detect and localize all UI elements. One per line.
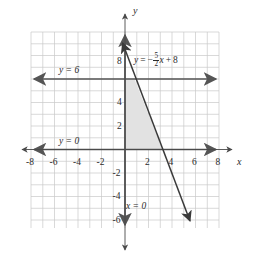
y-tick-4: 4 — [117, 98, 122, 108]
x-tick--6: -6 — [50, 158, 58, 168]
y-axis-name: y — [133, 6, 137, 16]
equation-fraction: 52 — [153, 53, 159, 69]
y-tick--4: -4 — [113, 192, 121, 202]
equation-denominator: 2 — [153, 60, 159, 68]
graph-figure: -8 -6 -4 -2 2 4 6 8 8 4 2 -2 -4 -6 y x y… — [0, 0, 254, 259]
equation-variable: x — [160, 55, 164, 65]
x-tick--4: -4 — [73, 158, 81, 168]
x-tick--8: -8 — [26, 158, 34, 168]
label-x-equals-0: x = 0 — [126, 202, 146, 212]
label-y-equals-6: y = 6 — [59, 66, 79, 76]
equation-numerator: 5 — [153, 53, 159, 60]
x-tick-4: 4 — [169, 158, 174, 168]
coordinate-plane — [0, 0, 254, 259]
equation-lhs: y — [134, 55, 138, 65]
x-tick-6: 6 — [192, 158, 197, 168]
x-axis-name: x — [237, 157, 241, 167]
y-tick--2: -2 — [113, 169, 121, 179]
equation-plus-sign: + — [166, 55, 171, 65]
x-tick--2: -2 — [97, 158, 105, 168]
x-tick-8: 8 — [216, 158, 221, 168]
equation-constant: 8 — [173, 55, 178, 65]
label-line-equation: y=−52x+8 — [134, 53, 178, 69]
equation-minus-sign: − — [148, 55, 153, 65]
y-tick-8: 8 — [117, 57, 122, 67]
x-tick-2: 2 — [145, 158, 150, 168]
y-tick--6: -6 — [113, 216, 121, 226]
label-y-equals-0: y = 0 — [59, 137, 79, 147]
y-tick-2: 2 — [117, 122, 122, 132]
equation-equals: = — [140, 55, 145, 65]
